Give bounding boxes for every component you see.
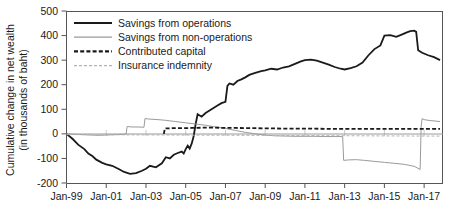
x-tick-label: Jan-07 [209,190,241,202]
y-tick-label: 500 [40,5,58,17]
y-axis-ticks: 5004003002001000-100-200 [37,5,67,189]
series-line-contributed-capital [164,128,440,134]
x-axis-ticks: Jan-99Jan-01Jan-03Jan-05Jan-07Jan-09Jan-… [50,130,440,202]
y-tick-label: 100 [40,103,58,115]
x-tick-label: Jan-99 [50,190,82,202]
y-tick-label: 200 [40,78,58,90]
x-tick-label: Jan-09 [249,190,281,202]
series-line-savings-from-non-operations [67,119,441,170]
y-tick-label: 300 [40,54,58,66]
y-tick-label: -100 [37,152,58,164]
legend-label-savings-from-non-operations: Savings from non-operations [118,31,252,43]
legend-label-savings-from-operations: Savings from operations [118,17,231,29]
x-tick-label: Jan-17 [408,190,440,202]
x-tick-label: Jan-03 [130,190,162,202]
x-tick-label: Jan-11 [289,190,320,202]
chart-legend: Savings from operationsSavings from non-… [70,12,270,73]
x-tick-label: Jan-01 [90,190,122,202]
x-tick-label: Jan-05 [170,190,202,202]
y-axis-title: Cumulative change in net wealth (in thou… [4,24,29,176]
y-axis-title-line2: (in thousands of baht) [17,49,29,151]
y-tick-label: 0 [52,127,58,139]
y-tick-label: -200 [37,177,58,189]
cumulative-net-wealth-line-chart: Cumulative change in net wealth (in thou… [0,0,449,216]
x-tick-label: Jan-13 [329,190,361,202]
y-axis-title-line1: Cumulative change in net wealth [4,24,16,176]
legend-label-insurance-indemnity: Insurance indemnity [118,59,213,71]
legend-label-contributed-capital: Contributed capital [118,45,206,57]
y-tick-label: 400 [40,29,58,41]
x-tick-label: Jan-15 [368,190,400,202]
chart-container: Cumulative change in net wealth (in thou… [0,0,449,216]
